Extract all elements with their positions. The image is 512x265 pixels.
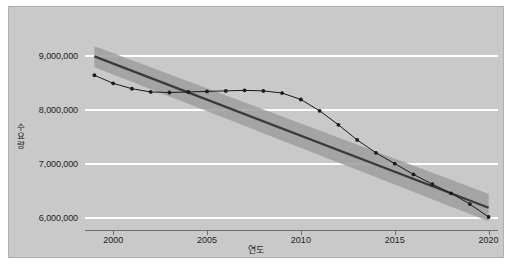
y-tick-label: 9,000,000 — [39, 51, 78, 61]
data-point — [149, 90, 153, 94]
y-axis-title: 수요량 — [15, 123, 27, 150]
data-point — [92, 73, 96, 77]
data-point — [168, 91, 172, 95]
y-tick-label: 7,000,000 — [39, 159, 78, 169]
data-point — [449, 191, 453, 195]
data-point — [130, 87, 134, 91]
y-tick-label: 6,000,000 — [39, 213, 78, 223]
data-point — [393, 162, 397, 166]
x-axis-title: 연도 — [9, 243, 503, 256]
x-axis-line — [85, 230, 498, 231]
trend-line — [94, 56, 488, 207]
chart-figure: 수요량 9,000,000 8,000,000 7,000,000 6,000,… — [8, 6, 504, 258]
data-point — [412, 173, 416, 177]
data-point — [487, 215, 491, 219]
data-point — [243, 88, 247, 92]
data-point — [337, 123, 341, 127]
data-point — [374, 151, 378, 155]
data-point — [111, 81, 115, 85]
chart-canvas — [85, 37, 498, 231]
data-point — [224, 89, 228, 93]
data-point — [430, 182, 434, 186]
plot-area: 9,000,000 8,000,000 7,000,000 6,000,000 … — [85, 37, 498, 231]
data-point — [318, 109, 322, 113]
data-point — [205, 90, 209, 94]
data-point — [299, 98, 303, 102]
data-point — [261, 89, 265, 93]
y-tick-label: 8,000,000 — [39, 105, 78, 115]
data-point — [355, 138, 359, 142]
confidence-band — [94, 46, 488, 221]
data-point — [468, 202, 472, 206]
data-point — [186, 90, 190, 94]
data-point — [280, 91, 284, 95]
